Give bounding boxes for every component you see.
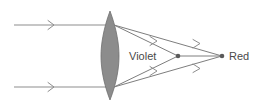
violet-focus-dot	[176, 54, 181, 59]
red-focus-dot	[220, 54, 225, 59]
optics-diagram: Violet Red	[0, 0, 272, 108]
red-label: Red	[229, 50, 249, 62]
violet-label: Violet	[129, 50, 156, 62]
upper-incoming-ray	[14, 21, 112, 30]
optics-svg: Violet Red	[0, 0, 272, 108]
lower-incoming-ray	[14, 83, 112, 92]
